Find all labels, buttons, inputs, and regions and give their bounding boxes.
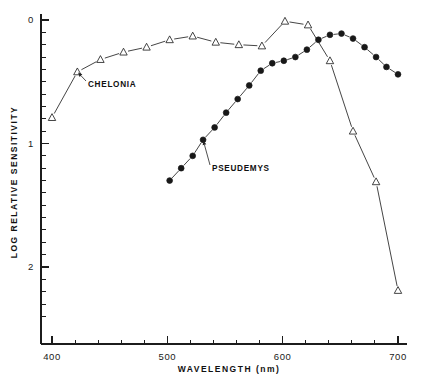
data-point-open-triangle xyxy=(349,127,356,134)
series-segment xyxy=(240,88,247,96)
data-point-filled-circle xyxy=(395,71,401,77)
data-point-filled-circle xyxy=(178,165,184,171)
data-point-open-triangle xyxy=(48,114,55,121)
annotations-group: CHELONIAPSEUDEMYS xyxy=(78,73,270,173)
series-segment xyxy=(128,48,142,51)
series-segment xyxy=(172,171,179,178)
data-point-open-triangle xyxy=(189,32,196,39)
x-axis-title: WAVELENGTH (nm) xyxy=(178,364,281,374)
y-axis-tick-label: 2 xyxy=(28,261,34,272)
data-series-group xyxy=(48,17,401,293)
series-segment xyxy=(228,102,235,110)
y-axis-title: LOG RELATIVE SENSITIVITY xyxy=(9,106,19,259)
data-point-filled-circle xyxy=(246,83,252,89)
series-segment xyxy=(251,73,258,82)
data-point-filled-circle xyxy=(235,96,241,102)
series-segment xyxy=(355,135,374,177)
x-axis-tick-label: 600 xyxy=(274,351,292,362)
series-segment xyxy=(356,41,362,45)
data-point-filled-circle xyxy=(190,153,196,159)
data-point-filled-circle xyxy=(281,58,287,64)
data-point-filled-circle xyxy=(292,54,298,60)
data-point-filled-circle xyxy=(373,54,379,60)
series-segment xyxy=(105,54,119,59)
data-point-filled-circle xyxy=(200,137,206,143)
sensitivity-chart: 012400500600700 CHELONIAPSEUDEMYS WAVELE… xyxy=(0,0,436,383)
data-point-open-triangle xyxy=(258,42,265,49)
series-segment xyxy=(298,52,303,56)
data-point-open-triangle xyxy=(166,36,173,43)
annotation-leader-line xyxy=(81,76,86,81)
series-segment xyxy=(290,22,304,24)
data-point-filled-circle xyxy=(316,37,322,43)
axes-group: 012400500600700 xyxy=(28,14,407,362)
data-point-open-triangle xyxy=(281,17,288,24)
series-segment xyxy=(184,158,191,165)
series-segment xyxy=(389,69,394,73)
series-segment xyxy=(174,37,188,39)
data-point-open-triangle xyxy=(304,21,311,28)
y-axis-tick-label: 1 xyxy=(28,138,34,149)
data-point-filled-circle xyxy=(269,60,275,66)
series-annotation-label: PSEUDEMYS xyxy=(212,164,270,173)
series-segment xyxy=(54,76,75,114)
data-point-open-triangle xyxy=(97,56,104,63)
series-annotation-label: CHELONIA xyxy=(88,80,136,89)
x-axis-tick-label: 700 xyxy=(389,351,407,362)
data-point-open-triangle xyxy=(372,178,379,185)
series-segment xyxy=(243,45,257,46)
series-segment xyxy=(81,62,96,70)
series-segment xyxy=(264,65,269,69)
figure-container: 012400500600700 CHELONIAPSEUDEMYS WAVELE… xyxy=(0,0,436,383)
series-segment xyxy=(217,115,224,124)
data-point-open-triangle xyxy=(143,43,150,50)
series-segment xyxy=(377,186,397,286)
data-point-open-triangle xyxy=(394,287,401,294)
series-segment xyxy=(197,37,211,41)
data-point-filled-circle xyxy=(258,68,264,74)
series-segment xyxy=(310,42,316,47)
data-point-filled-circle xyxy=(384,64,390,70)
series-segment xyxy=(287,58,292,60)
y-axis-tick-label: 0 xyxy=(28,14,34,25)
series-segment xyxy=(379,60,384,65)
data-point-open-triangle xyxy=(326,57,333,64)
x-axis-tick-label: 400 xyxy=(43,351,61,362)
series-segment xyxy=(276,62,280,63)
data-point-open-triangle xyxy=(212,38,219,45)
series-segment xyxy=(322,36,327,38)
data-point-filled-circle xyxy=(167,178,173,184)
data-point-open-triangle xyxy=(235,41,242,48)
series-segment xyxy=(220,43,234,44)
data-point-filled-circle xyxy=(339,31,345,37)
data-point-filled-circle xyxy=(223,110,229,116)
series-segment xyxy=(195,143,201,153)
annotation-leader-line xyxy=(204,145,210,165)
axis-titles-group: WAVELENGTH (nm)LOG RELATIVE SENSITIVITY xyxy=(9,106,280,374)
series-segment xyxy=(265,25,282,43)
series-segment xyxy=(151,41,165,46)
data-point-filled-circle xyxy=(362,44,368,50)
data-point-filled-circle xyxy=(212,125,218,131)
data-point-filled-circle xyxy=(304,47,310,53)
series-segment xyxy=(367,50,373,55)
data-point-filled-circle xyxy=(350,36,356,42)
series-segment xyxy=(345,35,350,37)
data-point-open-triangle xyxy=(120,48,127,55)
series-segment xyxy=(206,130,213,137)
data-point-filled-circle xyxy=(327,32,333,38)
series-segment xyxy=(331,65,351,127)
x-axis-tick-label: 500 xyxy=(159,351,177,362)
